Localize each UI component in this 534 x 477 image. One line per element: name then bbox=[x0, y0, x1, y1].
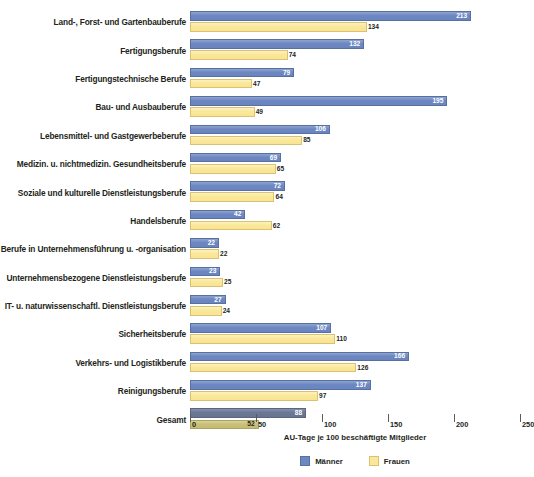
legend-item[interactable]: Frauen bbox=[369, 456, 410, 466]
chart-legend: MännerFrauen bbox=[190, 456, 520, 466]
bar-frauen: 24 bbox=[190, 306, 222, 316]
bar-frauen: 97 bbox=[190, 391, 318, 401]
tick-label: 0 bbox=[192, 420, 196, 429]
bar-maenner: 23 bbox=[190, 267, 220, 277]
bar-value-label: 106 bbox=[315, 126, 326, 133]
legend-swatch-maenner bbox=[300, 456, 310, 466]
bar-frauen: 62 bbox=[190, 221, 272, 231]
category-label: Land-, Forst- und Gartenbauberufe bbox=[0, 17, 190, 27]
bar-frauen: 65 bbox=[190, 164, 276, 174]
bar-maenner: 213 bbox=[190, 11, 471, 21]
tick-mark bbox=[190, 414, 191, 422]
tick-label: 150 bbox=[390, 420, 402, 429]
bar-frauen: 22 bbox=[190, 249, 219, 259]
bar-maenner: 42 bbox=[190, 210, 245, 220]
bar-pair: 4262 bbox=[190, 210, 520, 232]
category-label: IT- u. naturwissenschaftl. Dienstleistun… bbox=[0, 301, 190, 311]
bar-value-label: 110 bbox=[336, 336, 347, 343]
bar-pair: 2325 bbox=[190, 267, 520, 289]
bar-frauen: 25 bbox=[190, 278, 223, 288]
bar-value-label: 47 bbox=[253, 80, 260, 87]
bar-pair: 107110 bbox=[190, 323, 520, 345]
bar-value-label: 69 bbox=[270, 154, 277, 161]
category-label: Verkehrs- und Logistikberufe bbox=[0, 358, 190, 368]
row-plot-area: 2222 bbox=[190, 235, 520, 263]
chart-row: Berufe in Unternehmensführung u. -organi… bbox=[0, 235, 524, 263]
bar-value-label: 23 bbox=[209, 268, 216, 275]
legend-label: Männer bbox=[315, 457, 343, 466]
row-plot-area: 7264 bbox=[190, 178, 520, 206]
tick-label: 50 bbox=[258, 420, 266, 429]
category-label: Fertigungstechnische Berufe bbox=[0, 74, 190, 84]
row-plot-area: 4262 bbox=[190, 207, 520, 235]
chart-rows: Land-, Forst- und Gartenbauberufe213134F… bbox=[0, 8, 524, 434]
chart-row: Fertigungsberufe13274 bbox=[0, 36, 524, 64]
bar-frauen: 126 bbox=[190, 363, 356, 373]
bar-frauen: 110 bbox=[190, 334, 335, 344]
row-plot-area: 107110 bbox=[190, 320, 520, 348]
tick-label: 250 bbox=[522, 420, 534, 429]
category-label: Handelsberufe bbox=[0, 216, 190, 226]
category-label: Sicherheitsberufe bbox=[0, 329, 190, 339]
bar-value-label: 79 bbox=[283, 69, 290, 76]
bar-pair: 13797 bbox=[190, 380, 520, 402]
legend-swatch-frauen bbox=[369, 456, 379, 466]
chart-row: IT- u. naturwissenschaftl. Dienstleistun… bbox=[0, 292, 524, 320]
bar-pair: 13274 bbox=[190, 39, 520, 61]
x-axis-title: AU-Tage je 100 beschäftigte Mitglieder bbox=[190, 433, 520, 442]
bar-maenner: 166 bbox=[190, 352, 409, 362]
bar-pair: 19549 bbox=[190, 96, 520, 118]
bar-value-label: 62 bbox=[273, 222, 280, 229]
chart-row: Reinigungsberufe13797 bbox=[0, 377, 524, 405]
bar-frauen: 49 bbox=[190, 107, 255, 117]
chart-row: Lebensmittel- und Gastgewerbeberufe10685 bbox=[0, 122, 524, 150]
chart-row: Bau- und Ausbauberufe19549 bbox=[0, 93, 524, 121]
legend-label: Frauen bbox=[384, 457, 410, 466]
tick-label: 200 bbox=[456, 420, 468, 429]
bar-maenner: 132 bbox=[190, 39, 364, 49]
tick-label: 100 bbox=[324, 420, 336, 429]
bar-maenner: 79 bbox=[190, 68, 294, 78]
chart-row: Handelsberufe4262 bbox=[0, 207, 524, 235]
tick-mark bbox=[256, 414, 257, 422]
tick-mark bbox=[322, 414, 323, 422]
bar-value-label: 137 bbox=[356, 382, 367, 389]
chart-row: Fertigungstechnische Berufe7947 bbox=[0, 65, 524, 93]
bar-pair: 10685 bbox=[190, 125, 520, 147]
row-plot-area: 7947 bbox=[190, 65, 520, 93]
chart-row: Land-, Forst- und Gartenbauberufe213134 bbox=[0, 8, 524, 36]
bar-pair: 7264 bbox=[190, 181, 520, 203]
row-plot-area: 2724 bbox=[190, 292, 520, 320]
bar-value-label: 64 bbox=[275, 194, 282, 201]
chart-row: Soziale und kulturelle Dienstleistungsbe… bbox=[0, 178, 524, 206]
bar-frauen: 85 bbox=[190, 136, 302, 146]
bar-maenner: 107 bbox=[190, 323, 331, 333]
bar-maenner: 106 bbox=[190, 125, 330, 135]
category-label: Berufe in Unternehmensführung u. -organi… bbox=[0, 244, 190, 254]
bar-maenner: 137 bbox=[190, 380, 371, 390]
bar-value-label: 42 bbox=[234, 211, 241, 218]
bar-frauen: 64 bbox=[190, 192, 274, 202]
bar-value-label: 97 bbox=[319, 393, 326, 400]
category-label: Soziale und kulturelle Dienstleistungsbe… bbox=[0, 188, 190, 198]
bar-pair: 213134 bbox=[190, 11, 520, 33]
bar-pair: 2724 bbox=[190, 295, 520, 317]
bar-value-label: 213 bbox=[456, 12, 467, 19]
bar-value-label: 72 bbox=[274, 183, 281, 190]
row-plot-area: 13797 bbox=[190, 377, 520, 405]
bar-maenner: 195 bbox=[190, 96, 447, 106]
legend-item[interactable]: Männer bbox=[300, 456, 343, 466]
tick-mark bbox=[520, 414, 521, 422]
bar-value-label: 65 bbox=[277, 166, 284, 173]
tick-mark bbox=[454, 414, 455, 422]
bar-frauen: 74 bbox=[190, 50, 288, 60]
bar-value-label: 25 bbox=[224, 279, 231, 286]
bar-value-label: 24 bbox=[223, 307, 230, 314]
bar-value-label: 22 bbox=[208, 240, 215, 247]
bar-value-label: 85 bbox=[303, 137, 310, 144]
tick-mark bbox=[388, 414, 389, 422]
bar-value-label: 132 bbox=[349, 41, 360, 48]
chart-row: Verkehrs- und Logistikberufe166126 bbox=[0, 349, 524, 377]
row-plot-area: 213134 bbox=[190, 8, 520, 36]
